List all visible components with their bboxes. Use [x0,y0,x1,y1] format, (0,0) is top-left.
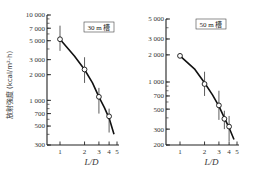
data-point-marker [97,94,102,99]
y-tick-label: 2 000 [29,71,45,79]
y-tick-label: 200 [154,141,165,149]
x-tick-label: 2 [203,148,207,156]
x-tick-label: 2 [83,148,87,156]
y-tick-label: 300 [154,126,165,134]
data-point-marker [82,67,87,72]
fit-curve [60,39,114,134]
x-tick-label: 1 [178,148,182,156]
x-tick-label: 1 [58,148,62,156]
x-tick-label: 5 [235,148,239,156]
chart-30m-tank: 3005007001 0002 0003 0005 0007 00010 000… [5,11,119,167]
data-point-marker [202,82,207,87]
data-point-marker [107,114,112,119]
y-tick-label: 500 [35,122,46,130]
fit-curve [180,56,234,140]
chart-canvas: 3005007001 0002 0003 0005 0007 00010 000… [0,0,254,178]
y-tick-label: 1 000 [29,97,45,105]
legend-label: 50 m 槽 [200,20,223,29]
x-tick-label: 4 [107,148,111,156]
x-tick-label: 5 [115,148,119,156]
chart-50m-tank: 2003005007001 0002 0003 0005 00012345L/D… [148,15,239,167]
legend-label: 30 m 槽 [88,23,111,32]
x-tick-label: 3 [217,148,221,156]
y-tick-label: 5 000 [148,15,164,23]
y-tick-label: 3 000 [29,56,45,64]
y-tick-label: 3 000 [148,35,164,43]
x-tick-label: 4 [227,148,231,156]
data-point-marker [222,116,227,121]
data-point-marker [227,124,232,129]
y-tick-label: 2 000 [148,51,164,59]
y-tick-label: 700 [154,92,165,100]
y-tick-label: 10 000 [26,11,46,19]
data-point-marker [58,37,63,42]
y-tick-label: 7 000 [29,25,45,33]
y-tick-label: 500 [154,106,165,114]
y-tick-label: 1 000 [148,78,164,86]
x-axis-title: L/D [83,157,99,167]
y-tick-label: 700 [35,110,46,118]
y-tick-label: 300 [35,141,46,149]
x-axis-title: L/D [203,157,219,167]
y-tick-label: 5 000 [29,37,45,45]
x-tick-label: 3 [97,148,101,156]
y-axis-title: 放射強度 (kcal/m²·h) [5,50,14,119]
data-point-marker [178,53,183,58]
data-point-marker [217,103,222,108]
